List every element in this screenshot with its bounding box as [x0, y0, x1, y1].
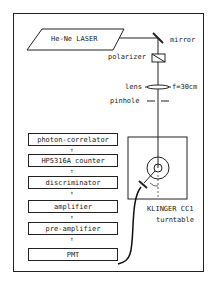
- arrow-icon: ⇑: [70, 236, 74, 242]
- arrow-icon: ⇑: [70, 147, 74, 153]
- turntable-label-line1: KLINGER CC1: [147, 205, 193, 213]
- arrow-icon: ⇑: [70, 214, 74, 220]
- photon-correlator-box: photon-correlator: [28, 133, 118, 146]
- polarizer-label: polarizer: [108, 53, 146, 61]
- counter-box: HP5316A counter: [28, 154, 118, 167]
- mirror-label: mirror: [170, 36, 195, 44]
- lens-label: lens: [125, 83, 142, 91]
- lens-icon: [147, 85, 169, 89]
- laser-label: He-Ne LASER: [51, 35, 97, 43]
- pinhole-label: pinhole: [110, 97, 140, 105]
- turntable-label-line2: turntable: [156, 216, 194, 224]
- focal-length-label: f=30cm: [172, 83, 197, 91]
- amplifier-box: amplifier: [28, 200, 118, 213]
- pmt-box: PMT: [28, 248, 118, 261]
- pre-amplifier-box: pre-amplifier: [28, 222, 118, 235]
- arrow-icon: ⇑: [70, 168, 74, 174]
- arrow-icon: ⇑: [70, 190, 74, 196]
- discriminator-box: discriminator: [28, 176, 118, 189]
